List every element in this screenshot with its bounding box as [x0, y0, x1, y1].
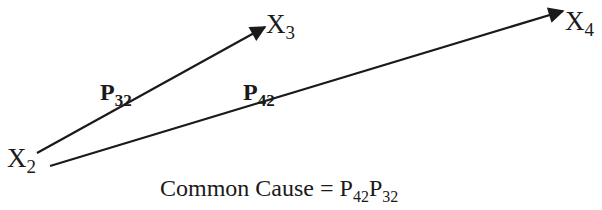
caption-text: Common Cause = [160, 175, 340, 201]
node-x3: X3 [266, 11, 295, 42]
edge-label-p32-sub: 32 [115, 91, 132, 110]
edge-label-p42-base: P [243, 79, 258, 105]
node-x2-sub: 2 [27, 156, 37, 177]
node-x2: X2 [7, 145, 36, 176]
path-diagram: X2 X3 X4 P32 P42 Common Cause = P42P32 [0, 0, 602, 210]
caption-term2-base: P [369, 175, 382, 201]
caption-term1-sub: 42 [353, 188, 369, 205]
node-x3-base: X [266, 9, 286, 39]
edge-label-p32-base: P [100, 79, 115, 105]
node-x2-base: X [7, 143, 27, 173]
node-x4: X4 [565, 8, 594, 39]
edge-label-p32: P32 [100, 80, 132, 109]
caption-formula: Common Cause = P42P32 [160, 176, 398, 205]
edge-label-p42-sub: 42 [258, 91, 275, 110]
node-x4-base: X [565, 6, 585, 36]
node-x3-sub: 3 [286, 22, 296, 43]
caption-term2-sub: 32 [382, 188, 398, 205]
caption-term1-base: P [340, 175, 353, 201]
node-x4-sub: 4 [585, 19, 595, 40]
edge-x2-x3 [37, 27, 265, 153]
edge-label-p42: P42 [243, 80, 275, 109]
